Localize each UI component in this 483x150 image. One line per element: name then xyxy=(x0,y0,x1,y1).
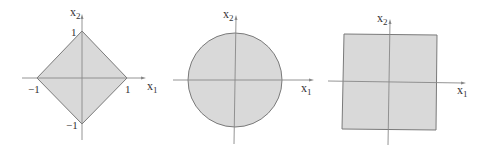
panel-circle: x2 x1 xyxy=(173,7,314,144)
x2-axis-arrow-icon xyxy=(81,14,84,19)
x2-axis-arrow-icon xyxy=(235,15,238,20)
tick-right: 1 xyxy=(125,83,131,95)
x2-axis-label: x2 xyxy=(223,7,234,23)
x2-axis-label: x2 xyxy=(377,11,388,27)
x1-axis-label: x1 xyxy=(147,79,158,95)
tick-top: 1 xyxy=(71,26,77,38)
x1-axis-label: x1 xyxy=(301,81,312,97)
panel-square: x2 x1 xyxy=(328,11,468,145)
x1-axis-label: x1 xyxy=(457,83,468,99)
x1-axis-arrow-icon xyxy=(141,77,146,80)
tick-bottom: −1 xyxy=(66,119,78,131)
tick-left: −1 xyxy=(28,83,40,95)
x1-axis-arrow-icon xyxy=(309,79,314,82)
panel-diamond: x2 x1 1 1 −1 −1 xyxy=(22,5,158,140)
unit-balls-figure: x2 x1 1 1 −1 −1 x2 x1 x2 x1 xyxy=(0,0,483,150)
x2-axis-arrow-icon xyxy=(389,19,392,24)
x2-axis-label: x2 xyxy=(70,5,81,21)
